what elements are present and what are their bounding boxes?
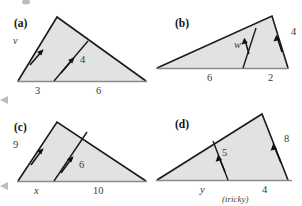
crop-artifact-arrow-left-lower: [0, 182, 8, 190]
panel-b-right-side-label: 4: [291, 26, 297, 37]
panel-b-base-right-label: 2: [268, 72, 273, 83]
panel-c: (c) 9 6 x 10: [13, 121, 147, 196]
crop-artifact-speck: [22, 0, 30, 5]
panel-a: (a) v 4 3 6: [13, 17, 147, 96]
panel-b-cevian-label: w: [234, 39, 241, 50]
panel-c-left-side-label: 9: [13, 139, 18, 150]
panel-a-base-left-label: 3: [35, 85, 40, 96]
panel-c-label: (c): [14, 121, 27, 134]
panel-b-base-left-label: 6: [207, 72, 212, 83]
panel-c-cevian-label: 6: [79, 159, 84, 170]
panel-c-base-right-label: 10: [93, 185, 104, 196]
panel-d-cevian-label: 5: [222, 147, 227, 158]
panel-a-label: (a): [14, 17, 28, 30]
panel-a-left-side-label: v: [13, 35, 18, 46]
panel-d-base-left-label: y: [199, 184, 205, 195]
panel-a-cevian-label: 4: [80, 54, 86, 65]
geometry-figure: (a) v 4 3 6 (b) w 4 6: [0, 0, 302, 206]
panel-b: (b) w 4 6 2: [156, 16, 297, 83]
figure-canvas: (a) v 4 3 6 (b) w 4 6: [0, 0, 302, 206]
panel-d-label: (d): [175, 118, 189, 131]
panel-b-label: (b): [175, 17, 189, 30]
panel-d-tricky-note: (tricky): [222, 194, 248, 204]
panel-d-base-right-label: 4: [262, 184, 268, 195]
crop-artifact-arrow-left: [0, 96, 8, 104]
panel-d: (d) 8 5 y 4 (tricky): [156, 114, 292, 204]
panel-c-base-left-label: x: [33, 185, 39, 196]
panel-a-base-right-label: 6: [96, 85, 101, 96]
panel-d-right-side-label: 8: [284, 133, 289, 144]
